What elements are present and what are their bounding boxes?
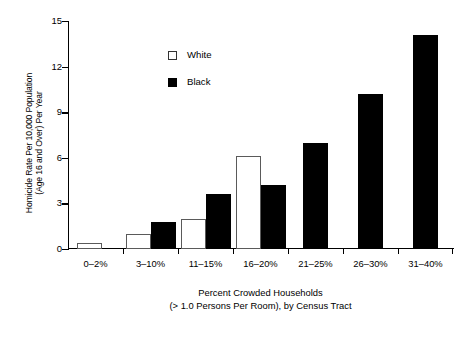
bar-black-11-15-: [206, 194, 231, 249]
y-tick-label-3: 3: [32, 198, 62, 208]
x-category-label-0: 0–2%: [68, 258, 123, 270]
bar-black-3-10-: [151, 222, 176, 249]
y-tick-label-0: 0: [32, 244, 62, 254]
x-category-label-1: 3–10%: [123, 258, 178, 270]
legend-item-white: White: [168, 50, 212, 60]
legend: White Black: [168, 50, 212, 87]
x-tick-separator-6: [398, 249, 399, 254]
bar-white-3-10-: [126, 234, 151, 249]
x-category-label-5: 26–30%: [343, 258, 398, 270]
y-tick-label-6: 6: [32, 153, 62, 163]
y-tick-label-15: 15: [32, 16, 62, 26]
x-category-label-2: 11–15%: [178, 258, 233, 270]
legend-swatch-black-icon: [168, 78, 177, 87]
legend-label-black: Black: [187, 77, 210, 87]
y-tick-label-12: 12: [32, 62, 62, 72]
y-tick-label-9: 9: [32, 107, 62, 117]
y-tick-0: [62, 249, 68, 250]
x-axis-category-labels: 0–2%3–10%11–15%16–20%21–25%26–30%31–40%: [68, 258, 453, 272]
bars-layer: [68, 21, 453, 249]
x-axis-title-line-1: Percent Crowded Households: [68, 286, 453, 299]
bar-black-16-20-: [261, 185, 286, 249]
x-tick-separator-4: [288, 249, 289, 254]
x-tick-separator-2: [178, 249, 179, 254]
bar-white-16-20-: [236, 156, 261, 249]
bar-white-0-2-: [77, 243, 102, 249]
x-category-label-6: 31–40%: [398, 258, 453, 270]
x-category-label-4: 21–25%: [288, 258, 343, 270]
y-axis-tick-labels: 15 12 9 6 3 0: [32, 21, 62, 250]
plot-area: [68, 21, 453, 249]
legend-label-white: White: [187, 50, 212, 60]
x-tick-separator-7: [452, 249, 453, 254]
bar-black-21-25-: [303, 143, 328, 249]
legend-item-black: Black: [168, 77, 212, 87]
x-axis-title: Percent Crowded Households (> 1.0 Person…: [68, 286, 453, 312]
bar-black-26-30-: [358, 94, 383, 249]
x-tick-separator-1: [123, 249, 124, 254]
homicide-rate-bar-chart: Homicide Rate Per 10,000 Population (Age…: [0, 0, 459, 339]
bar-white-11-15-: [181, 219, 206, 249]
x-tick-separator-3: [233, 249, 234, 254]
legend-swatch-white-icon: [168, 51, 177, 60]
x-axis-title-line-2: (> 1.0 Persons Per Room), by Census Trac…: [68, 299, 453, 312]
x-tick-separator-5: [343, 249, 344, 254]
x-category-label-3: 16–20%: [233, 258, 288, 270]
bar-black-31-40-: [413, 35, 438, 249]
